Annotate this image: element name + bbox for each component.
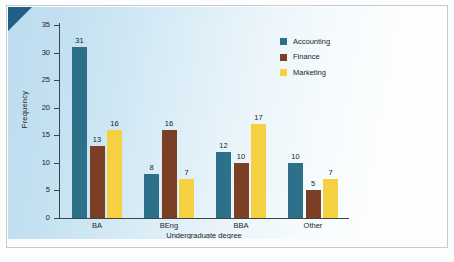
bar-value-label: 12	[211, 142, 237, 150]
bar	[288, 163, 303, 218]
bar	[107, 130, 122, 218]
bar-value-label: 7	[174, 169, 200, 177]
scanned-page: 05101520253035 Frequency 311316816712101…	[0, 0, 454, 262]
legend-item: Finance	[280, 53, 400, 62]
x-axis-group-label-other: Other	[278, 221, 348, 230]
y-axis-tick-label: 0	[20, 214, 50, 222]
x-axis-group-label-beng: BEng	[134, 221, 204, 230]
page-border-left	[6, 5, 7, 248]
bar-value-label: 16	[102, 120, 128, 128]
legend-item-label: Marketing	[293, 69, 326, 77]
x-axis-line	[59, 218, 349, 219]
page-border-right	[447, 5, 448, 248]
y-axis-tick	[54, 80, 59, 81]
x-axis-group-label-ba: BA	[62, 221, 132, 230]
legend-item: Marketing	[280, 68, 400, 77]
y-axis-tick	[54, 190, 59, 191]
page-border-bottom	[6, 247, 448, 248]
y-axis-line	[59, 23, 60, 219]
y-axis-tick	[54, 163, 59, 164]
bar	[234, 163, 249, 218]
y-axis-tick	[54, 25, 59, 26]
bar-value-label: 17	[246, 114, 272, 122]
bar	[179, 179, 194, 218]
chart-legend: AccountingFinanceMarketing	[280, 37, 400, 84]
bar	[251, 124, 266, 218]
y-axis-tick-label: 30	[20, 49, 50, 57]
bar-value-label: 31	[67, 37, 93, 45]
legend-swatch-icon	[280, 38, 287, 45]
bar	[90, 146, 105, 218]
y-axis-tick	[54, 135, 59, 136]
legend-item-label: Accounting	[293, 38, 330, 46]
y-axis-tick	[54, 108, 59, 109]
legend-item: Accounting	[280, 37, 400, 46]
bar	[72, 47, 87, 218]
legend-swatch-icon	[280, 54, 287, 61]
y-axis-tick-label: 35	[20, 21, 50, 29]
y-axis-tick	[54, 218, 59, 219]
legend-swatch-icon	[280, 69, 287, 76]
bar-value-label: 16	[156, 120, 182, 128]
y-axis-title: Frequency	[20, 70, 29, 150]
bar	[323, 179, 338, 218]
bar	[144, 174, 159, 218]
bar-value-label: 7	[318, 169, 344, 177]
y-axis-tick-label: 5	[20, 186, 50, 194]
page-border-top	[6, 5, 448, 6]
x-axis-group-label-bba: BBA	[206, 221, 276, 230]
y-axis-tick	[54, 53, 59, 54]
chart-panel: 05101520253035 Frequency 311316816712101…	[8, 7, 446, 239]
y-axis-tick-label: 10	[20, 159, 50, 167]
legend-item-label: Finance	[293, 53, 320, 61]
bar	[216, 152, 231, 218]
x-axis-title: Undergraduate degree	[59, 231, 349, 239]
bar	[306, 190, 321, 218]
bar-value-label: 10	[283, 153, 309, 161]
